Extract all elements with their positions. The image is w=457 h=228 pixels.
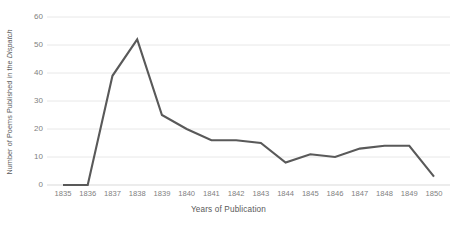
y-tick-label: 30 [3,97,43,105]
y-tick-label: 0 [3,181,43,189]
plot-svg [47,17,450,185]
y-tick-label: 60 [3,13,43,21]
x-axis-title: Years of Publication [0,205,457,214]
y-tick-label: 10 [3,153,43,161]
data-series-line [63,39,434,185]
y-tick-label: 40 [3,69,43,77]
y-tick-label: 50 [3,41,43,49]
x-axis-tick-labels: 1835183618371838183918401841184218431844… [47,188,450,202]
gridlines [47,17,450,157]
y-axis-tick-labels: 0102030405060 [0,17,43,185]
y-tick-label: 20 [3,125,43,133]
line-chart: Number of Poems Published in the Dispatc… [0,0,457,228]
plot-area [47,17,450,185]
x-tick-label: 1850 [414,188,454,200]
